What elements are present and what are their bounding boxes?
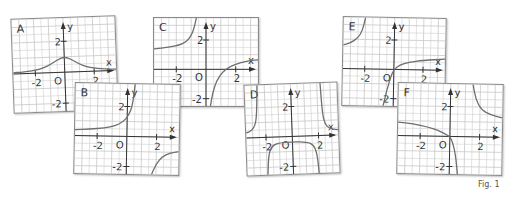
cropped-top-text bbox=[0, 0, 514, 4]
graph-svg: -222-2BxyO bbox=[74, 83, 180, 175]
x-tick-label: -2 bbox=[32, 77, 42, 88]
x-axis-arrow-icon bbox=[249, 67, 256, 72]
card-letter-label: B bbox=[81, 86, 89, 99]
y-tick-label: 2 bbox=[118, 101, 125, 112]
y-tick-label: -2 bbox=[279, 162, 289, 173]
x-axis-arrow-icon bbox=[493, 135, 500, 140]
y-tick-label: 2 bbox=[441, 101, 448, 112]
function-curve bbox=[151, 151, 178, 175]
origin-label: O bbox=[54, 75, 62, 86]
x-tick-label: -2 bbox=[262, 141, 272, 152]
origin-label: O bbox=[439, 139, 447, 150]
x-axis-arrow-icon bbox=[170, 135, 177, 140]
x-axis-arrow-icon bbox=[329, 132, 336, 137]
y-tick-label: -2 bbox=[192, 94, 202, 105]
y-axis-label: y bbox=[295, 87, 301, 98]
x-tick-label: -2 bbox=[172, 73, 182, 84]
y-tick-label: 2 bbox=[385, 35, 392, 46]
x-axis-label: x bbox=[435, 56, 441, 67]
x-axis-label: x bbox=[328, 121, 334, 132]
y-axis bbox=[126, 92, 127, 174]
card-letter-label: A bbox=[17, 22, 25, 35]
graph-card-d: -222-2DxyO bbox=[243, 81, 340, 176]
y-axis-label: y bbox=[399, 21, 405, 32]
x-tick-label: -2 bbox=[93, 140, 103, 151]
x-axis-label: x bbox=[169, 123, 175, 134]
card-letter-label: E bbox=[348, 20, 355, 33]
origin-label: O bbox=[195, 72, 203, 83]
x-axis-label: x bbox=[106, 57, 112, 68]
graph-svg: -222-2FxyO bbox=[397, 83, 503, 175]
figure-caption: Fig. 1 bbox=[478, 180, 500, 189]
y-axis-label: y bbox=[455, 87, 461, 98]
graph-card-f: -222-2FxyO bbox=[396, 82, 504, 176]
x-tick-label: -2 bbox=[360, 73, 370, 84]
x-tick-label: 2 bbox=[477, 141, 484, 152]
y-axis bbox=[449, 92, 450, 174]
card-letter-label: F bbox=[404, 86, 411, 99]
y-axis bbox=[393, 26, 394, 106]
y-tick-label: -2 bbox=[52, 98, 62, 109]
y-tick-label: -2 bbox=[435, 161, 445, 172]
graph-card-b: -222-2BxyO bbox=[73, 82, 181, 176]
x-tick-label: -2 bbox=[416, 140, 426, 151]
origin-label: O bbox=[281, 140, 289, 151]
y-axis-label: y bbox=[210, 21, 216, 32]
x-axis-arrow-icon bbox=[436, 68, 443, 73]
y-tick-label: 2 bbox=[55, 36, 62, 47]
card-letter-label: C bbox=[159, 21, 167, 34]
y-tick-label: 2 bbox=[282, 102, 289, 113]
y-axis bbox=[63, 26, 66, 111]
x-tick-label: 2 bbox=[234, 73, 240, 84]
graph-svg: -222-2DxyO bbox=[244, 82, 339, 175]
y-axis-label: y bbox=[67, 21, 73, 32]
x-tick-label: 2 bbox=[317, 139, 324, 150]
origin-label: O bbox=[116, 139, 124, 150]
y-axis bbox=[291, 92, 294, 174]
y-tick-label: -2 bbox=[112, 161, 122, 172]
x-tick-label: 2 bbox=[154, 141, 161, 152]
y-tick-label: 2 bbox=[197, 35, 203, 46]
x-axis-label: x bbox=[492, 123, 498, 134]
